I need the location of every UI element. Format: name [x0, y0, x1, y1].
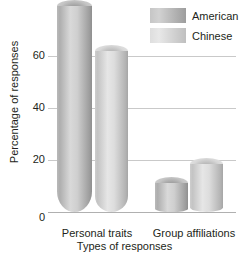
bar-body: [57, 6, 92, 212]
x-tick-label-personal-traits: Personal traits: [42, 227, 152, 239]
legend-label-american: American: [192, 10, 238, 22]
y-axis-title: Percentage of responses: [8, 22, 20, 182]
legend: American Chinese: [150, 7, 246, 47]
bar-group-affiliations-american: [155, 177, 188, 212]
axis-baseline: [48, 212, 236, 213]
bar-personal-traits-chinese: [95, 45, 128, 212]
bar-personal-traits-american: [57, 0, 92, 212]
bar-body: [155, 183, 188, 212]
bar-chart: 60 40 20 0 Percentage of responses: [0, 0, 249, 254]
legend-item-american: American: [150, 7, 246, 24]
legend-swatch-chinese-icon: [150, 28, 186, 43]
bar-body: [190, 164, 223, 212]
bar-group-affiliations-chinese: [190, 158, 223, 212]
legend-swatch-american-icon: [150, 8, 186, 23]
legend-item-chinese: Chinese: [150, 27, 246, 44]
legend-label-chinese: Chinese: [192, 30, 232, 42]
bar-body: [95, 51, 128, 212]
x-axis-title: Types of responses: [0, 240, 249, 252]
y-tick-label-0: 0: [5, 212, 45, 223]
x-tick-label-group-affiliations: Group affiliations: [139, 227, 249, 239]
